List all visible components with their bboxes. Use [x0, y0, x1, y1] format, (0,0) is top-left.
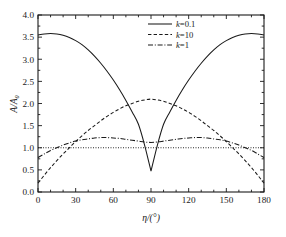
- svg-text:A/A₀: A/A₀: [8, 95, 19, 114]
- chart-figure: 0306090120150180 0.00.51.01.52.02.53.03.…: [0, 0, 286, 237]
- x-tick-label: 60: [109, 195, 119, 205]
- y-tick-label: 0.5: [23, 165, 35, 175]
- x-tick-label: 90: [146, 195, 156, 205]
- y-axis-label: A/A₀: [8, 95, 19, 114]
- y-tick-label: 1.5: [23, 121, 35, 131]
- x-tick-label: 30: [71, 195, 81, 205]
- y-tick-label: 4.0: [23, 10, 35, 20]
- x-axis-ticks: [38, 15, 264, 192]
- x-axis-label: η/(°): [142, 212, 160, 224]
- plot-frame: [38, 15, 264, 192]
- x-tick-label: 120: [182, 195, 196, 205]
- y-tick-label: 0.0: [23, 187, 35, 197]
- x-axis-tick-labels: 0306090120150180: [36, 195, 272, 205]
- y-tick-label: 1.0: [23, 143, 35, 153]
- y-tick-label: 3.5: [23, 32, 35, 42]
- y-axis-ticks: [38, 15, 264, 192]
- legend-label-2: k=1: [176, 40, 189, 50]
- legend-label-0: k=0.1: [176, 19, 195, 29]
- x-tick-label: 180: [257, 195, 271, 205]
- x-tick-label: 150: [219, 195, 233, 205]
- y-tick-label: 2.0: [23, 99, 35, 109]
- chart-legend: k=0.1k=10k=1: [148, 19, 195, 50]
- x-tick-label: 0: [36, 195, 41, 205]
- y-tick-label: 3.0: [23, 55, 35, 65]
- chart-svg: 0306090120150180 0.00.51.01.52.02.53.03.…: [0, 0, 286, 237]
- y-tick-label: 2.5: [23, 77, 35, 87]
- series-k-0-1: [38, 34, 264, 172]
- y-axis-tick-labels: 0.00.51.01.52.02.53.03.54.0: [23, 10, 35, 197]
- legend-label-1: k=10: [176, 30, 193, 40]
- chart-curves: [38, 34, 264, 184]
